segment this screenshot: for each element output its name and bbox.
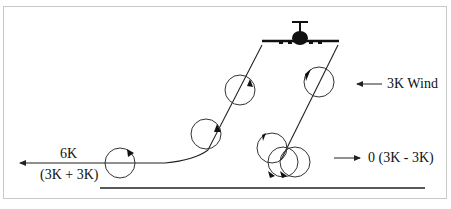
wind-label: 3K Wind (387, 77, 438, 91)
vortex-circle-1 (225, 75, 255, 105)
left-formula-label: (3K + 3K) (40, 168, 98, 182)
right-result-label: 0 (3K - 3K) (368, 151, 434, 165)
vortex-circle-right-1 (304, 67, 334, 97)
aircraft-icon (262, 22, 339, 45)
left-vortex-track (20, 45, 262, 163)
left-speed-label: 6K (60, 147, 77, 161)
right-vortex-track (281, 45, 338, 160)
